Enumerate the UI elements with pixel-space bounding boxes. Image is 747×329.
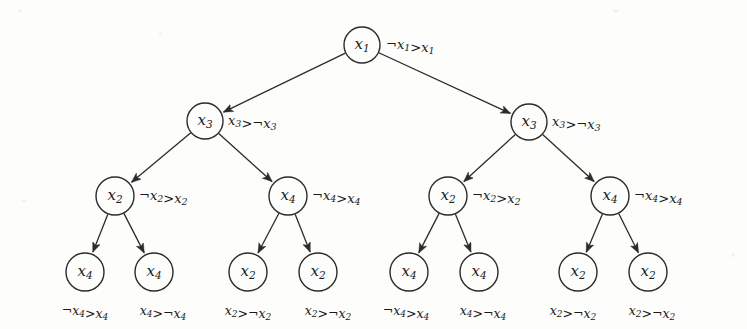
tree-edge bbox=[295, 214, 310, 252]
leaf-caption: x4>¬x4 bbox=[140, 303, 187, 322]
paper-speck bbox=[18, 9, 22, 12]
leaf-caption: x2>¬x2 bbox=[550, 303, 597, 322]
tree-edge bbox=[132, 133, 191, 182]
tree-leaf-node[interactable]: x2 bbox=[229, 253, 267, 291]
tree-edge bbox=[586, 214, 602, 252]
tree-node[interactable]: x2 bbox=[96, 177, 134, 215]
node-annotation: ¬x4>x4 bbox=[634, 188, 683, 207]
leaf-caption: x4>¬x4 bbox=[460, 303, 507, 322]
node-annotation: ¬x1>x1 bbox=[386, 37, 435, 56]
paper-speck bbox=[613, 9, 618, 13]
paper-speck bbox=[159, 32, 162, 35]
paper-speck bbox=[22, 199, 26, 202]
leaf-caption: x2>¬x2 bbox=[225, 303, 272, 322]
tree-leaf-node[interactable]: x4 bbox=[135, 253, 173, 291]
node-annotation: x3>¬x3 bbox=[552, 114, 601, 133]
paper-speck bbox=[731, 253, 735, 257]
tree-node[interactable]: x4 bbox=[269, 177, 307, 215]
nodes-layer: x1x3x3x2x4x2x4x4x4x2x2x4x4x2x2 bbox=[66, 27, 667, 291]
leaf-caption: ¬x4>x4 bbox=[383, 303, 430, 322]
tree-node[interactable]: x1 bbox=[344, 27, 380, 63]
tree-node[interactable]: x3 bbox=[187, 103, 223, 139]
figure-canvas: x1x3x3x2x4x2x4x4x4x2x2x4x4x2x2 ¬x1>x1x3>… bbox=[0, 0, 747, 329]
leaf-caption: x2>¬x2 bbox=[305, 303, 352, 322]
edges-layer bbox=[93, 53, 638, 253]
tree-edge bbox=[379, 53, 511, 114]
tree-edge bbox=[219, 133, 272, 181]
node-annotation: ¬x2>x2 bbox=[139, 188, 188, 207]
leaf-caption: ¬x4>x4 bbox=[62, 303, 109, 322]
tree-edge bbox=[223, 53, 345, 112]
tree-leaf-node[interactable]: x2 bbox=[299, 253, 337, 291]
tree-leaf-node[interactable]: x4 bbox=[460, 253, 498, 291]
tree-edge bbox=[124, 213, 144, 253]
leaf-caption: x2>¬x2 bbox=[629, 303, 676, 322]
tree-leaf-node[interactable]: x2 bbox=[629, 253, 667, 291]
tree-edge bbox=[455, 214, 471, 252]
decision-tree-diagram: x1x3x3x2x4x2x4x4x4x2x2x4x4x2x2 ¬x1>x1x3>… bbox=[0, 0, 747, 329]
tree-node[interactable]: x4 bbox=[591, 177, 629, 215]
tree-edge bbox=[619, 213, 639, 252]
tree-edge bbox=[258, 213, 279, 253]
tree-leaf-node[interactable]: x4 bbox=[390, 253, 428, 291]
tree-node[interactable]: x3 bbox=[511, 104, 547, 140]
tree-edge bbox=[419, 213, 439, 253]
node-annotation: ¬x2>x2 bbox=[472, 188, 521, 207]
leaf-captions-layer: ¬x4>x4x4>¬x4x2>¬x2x2>¬x2¬x4>x4x4>¬x4x2>¬… bbox=[62, 303, 676, 322]
tree-edge bbox=[543, 134, 594, 181]
node-annotation: ¬x4>x4 bbox=[312, 188, 361, 207]
tree-node[interactable]: x2 bbox=[429, 177, 467, 215]
node-annotation: x3>¬x3 bbox=[228, 113, 277, 132]
tree-leaf-node[interactable]: x4 bbox=[66, 253, 104, 291]
tree-edge bbox=[464, 134, 515, 181]
tree-edge bbox=[93, 214, 108, 252]
tree-leaf-node[interactable]: x2 bbox=[559, 253, 597, 291]
